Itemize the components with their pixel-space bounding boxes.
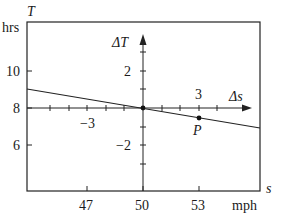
delta-s-arrow-icon bbox=[242, 105, 252, 112]
x-tick-label-53: 53 bbox=[191, 198, 205, 213]
point-p-label: P bbox=[192, 123, 202, 138]
delta-T-tick-label-2: 2 bbox=[124, 64, 131, 79]
chart: T hrs 10 8 6 47 50 53 mph s ΔT 2 −2 −3 3… bbox=[0, 0, 281, 220]
x-unit-label: mph bbox=[232, 198, 257, 213]
outer-x-axis-label: s bbox=[266, 181, 272, 196]
delta-s-tick-label-minus-3: −3 bbox=[80, 116, 95, 131]
y-tick-label-6: 6 bbox=[13, 138, 20, 153]
delta-T-tick-label-minus-2: −2 bbox=[116, 138, 131, 153]
delta-T-label: ΔT bbox=[111, 35, 129, 50]
outer-y-axis-label: T bbox=[27, 4, 36, 19]
point-p bbox=[197, 116, 202, 121]
delta-s-label: Δs bbox=[228, 89, 243, 104]
y-tick-label-8: 8 bbox=[13, 101, 20, 116]
x-tick-label-47: 47 bbox=[79, 198, 93, 213]
outer-y-unit-label: hrs bbox=[2, 20, 19, 35]
x-tick-label-50: 50 bbox=[135, 198, 149, 213]
origin-point bbox=[141, 106, 146, 111]
delta-T-arrow-icon bbox=[140, 34, 147, 45]
delta-s-tick-label-3: 3 bbox=[195, 87, 202, 102]
y-tick-label-10: 10 bbox=[6, 64, 20, 79]
